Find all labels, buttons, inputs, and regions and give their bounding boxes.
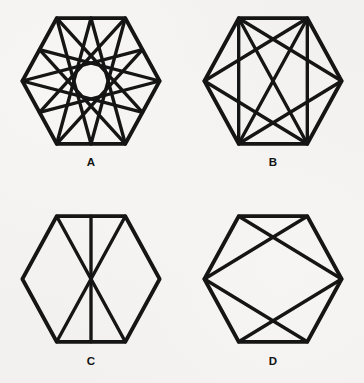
hexagon-figure-d bbox=[198, 206, 348, 352]
figure-grid: A bbox=[0, 0, 364, 383]
hexagon-svg-d bbox=[198, 206, 348, 352]
panel-label-a: A bbox=[87, 157, 96, 169]
figure-panel-a[interactable]: A bbox=[0, 0, 182, 192]
hexagon-svg-a bbox=[16, 8, 166, 154]
hexagon-svg-c bbox=[16, 206, 166, 352]
panel-label-d: D bbox=[269, 356, 278, 368]
figure-panel-c[interactable]: C bbox=[0, 192, 182, 383]
chords-b bbox=[204, 18, 341, 144]
hexagon-figure-c bbox=[16, 206, 166, 352]
figure-sheet: A bbox=[0, 0, 364, 383]
hexagon-figure-b bbox=[198, 8, 348, 154]
star-chords-a bbox=[22, 18, 159, 144]
panel-label-b: B bbox=[269, 157, 278, 169]
figure-panel-d[interactable]: D bbox=[182, 192, 364, 383]
hexagon-svg-b bbox=[198, 8, 348, 154]
figure-panel-b[interactable]: B bbox=[182, 0, 364, 192]
hexagon-outline-d bbox=[204, 216, 341, 342]
hexagon-outline-a bbox=[22, 18, 159, 144]
hexagon-figure-a bbox=[16, 8, 166, 154]
panel-label-c: C bbox=[87, 356, 96, 368]
spokes-c bbox=[57, 216, 126, 342]
chords-d bbox=[204, 216, 341, 342]
